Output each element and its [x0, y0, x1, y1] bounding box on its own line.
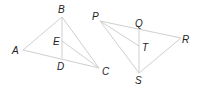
label-P: P — [92, 11, 99, 22]
geometry-diagram: A B C D E P Q R S T — [0, 0, 199, 88]
label-D: D — [57, 61, 64, 72]
label-C: C — [102, 66, 110, 77]
label-B: B — [58, 4, 65, 15]
label-E: E — [53, 36, 60, 47]
label-Q: Q — [135, 18, 143, 29]
label-T: T — [142, 42, 149, 53]
label-R: R — [182, 34, 189, 45]
label-A: A — [11, 45, 19, 56]
label-S: S — [135, 75, 142, 86]
